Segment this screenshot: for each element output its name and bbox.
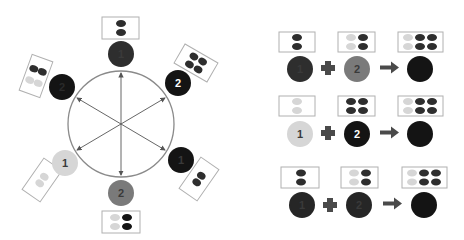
color-circle-result — [411, 192, 437, 218]
color-wheel: 1 2 1 2 — [19, 17, 219, 233]
plus-icon — [321, 126, 335, 140]
wheel-node-upper-right: 2 — [165, 44, 218, 96]
equation-row-1: 1 2 — [279, 32, 443, 82]
circle-label: 1 — [297, 63, 303, 75]
plus-icon — [321, 61, 335, 75]
circle-label: 1 — [299, 199, 305, 211]
ratio-box — [341, 167, 378, 188]
circle-label: 2 — [175, 77, 181, 89]
wheel-node-bottom: 2 — [102, 180, 140, 233]
arrow-right-icon — [380, 127, 399, 139]
dot — [116, 29, 126, 36]
equation-row-3: 1 2 — [281, 167, 447, 218]
ratio-box — [102, 211, 140, 233]
color-circle-result — [407, 121, 433, 147]
wheel-axes — [77, 73, 165, 175]
wheel-node-lower-right: 1 — [168, 147, 219, 201]
color-circle-result — [407, 56, 433, 82]
wheel-node-lower-left: 1 — [22, 150, 78, 202]
circle-label: 2 — [354, 128, 360, 140]
dot — [116, 20, 126, 27]
arrow-right-icon — [380, 62, 399, 74]
circle-label: 1 — [297, 128, 303, 140]
ratio-box — [338, 32, 375, 52]
circle-label: 2 — [118, 187, 124, 199]
ratio-box — [19, 54, 53, 97]
circle-label: 2 — [59, 81, 65, 93]
circle-label: 1 — [118, 48, 124, 60]
circle-label: 2 — [354, 63, 360, 75]
diagram-canvas: 1 2 1 2 — [0, 0, 464, 240]
circle-label: 1 — [62, 157, 68, 169]
wheel-node-upper-left: 2 — [19, 54, 75, 100]
ratio-box — [338, 96, 375, 116]
plus-icon — [323, 198, 337, 212]
circle-label: 2 — [356, 199, 362, 211]
wheel-node-top: 1 — [102, 17, 139, 67]
arrow-right-icon — [383, 198, 402, 210]
equation-row-2: 1 2 — [279, 96, 443, 147]
circle-label: 1 — [178, 154, 184, 166]
